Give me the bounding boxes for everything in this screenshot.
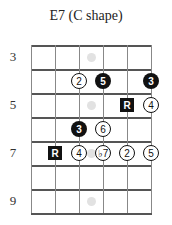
interval-marker: 3 xyxy=(143,73,159,89)
fretboard: 253R436R4♭725 xyxy=(31,45,151,213)
interval-marker: 5 xyxy=(95,73,111,89)
fret-number: 3 xyxy=(6,49,20,65)
root-marker: R xyxy=(48,146,62,160)
fret-line xyxy=(31,213,152,215)
fret-line xyxy=(31,45,152,47)
inlay-dot-icon xyxy=(87,197,96,206)
interval-marker: 2 xyxy=(119,145,135,161)
fret-number: 7 xyxy=(6,145,20,161)
fret-number: 5 xyxy=(6,97,20,113)
string-line xyxy=(151,45,152,213)
string-line xyxy=(31,45,32,213)
inlay-dot-icon xyxy=(87,101,96,110)
fret-line xyxy=(31,69,152,71)
string-line xyxy=(127,45,128,213)
string-line xyxy=(55,45,56,213)
interval-marker: 4 xyxy=(71,145,87,161)
fret-line xyxy=(31,189,152,191)
interval-marker: 4 xyxy=(143,97,159,113)
fret-line xyxy=(31,117,152,119)
fret-line xyxy=(31,141,152,143)
interval-marker: 2 xyxy=(71,73,87,89)
root-marker: R xyxy=(120,98,134,112)
interval-marker: 3 xyxy=(71,121,87,137)
fret-line xyxy=(31,165,152,167)
inlay-dot-icon xyxy=(87,53,96,62)
fret-number: 9 xyxy=(6,193,20,209)
chord-title: E7 (C shape) xyxy=(0,8,172,24)
interval-marker: 6 xyxy=(95,121,111,137)
fret-line xyxy=(31,93,152,95)
interval-marker: 5 xyxy=(143,145,159,161)
interval-marker: ♭7 xyxy=(95,145,111,161)
